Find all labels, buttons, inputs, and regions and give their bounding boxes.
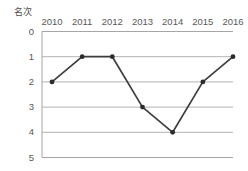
- data-point-2010: [50, 80, 55, 85]
- data-point-2013: [140, 105, 145, 110]
- data-point-2014: [170, 130, 175, 135]
- rank-line-chart: 名次 2010201120122013201420152016 012345: [0, 0, 248, 171]
- gridlines: [42, 32, 233, 158]
- series-line-path: [52, 57, 233, 133]
- data-point-2015: [200, 80, 205, 85]
- data-point-2016: [231, 54, 236, 59]
- series-line: [52, 57, 233, 133]
- data-point-markers: [50, 54, 236, 134]
- data-point-2012: [110, 54, 115, 59]
- data-point-2011: [80, 54, 85, 59]
- plot-area: [0, 0, 248, 171]
- plot-frame: [42, 32, 233, 158]
